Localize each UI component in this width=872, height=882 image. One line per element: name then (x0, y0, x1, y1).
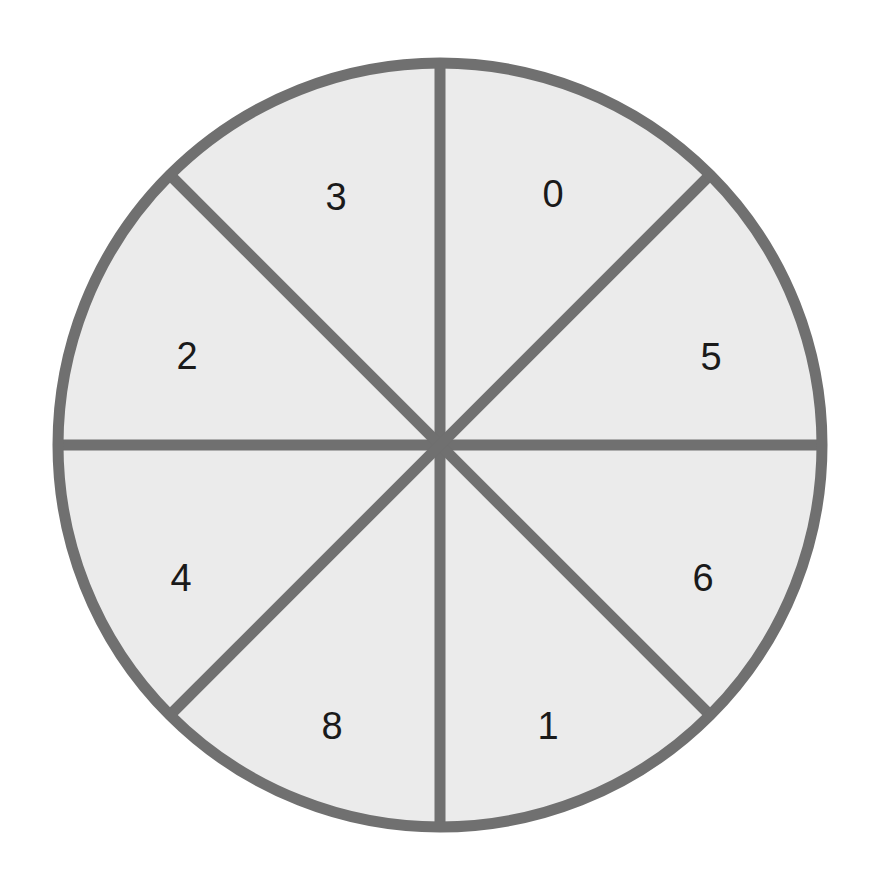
sector-label-3: 3 (325, 176, 346, 218)
sector-label-4: 4 (170, 557, 191, 599)
sector-label-2: 2 (176, 335, 197, 377)
sector-wheel-svg: 05618423 (0, 0, 872, 882)
sector-label-5: 5 (700, 336, 721, 378)
sector-label-8: 8 (321, 705, 342, 747)
sector-label-0: 0 (542, 173, 563, 215)
sector-wheel-figure: 05618423 (0, 0, 872, 882)
sector-label-6: 6 (692, 557, 713, 599)
sector-label-1: 1 (537, 705, 558, 747)
